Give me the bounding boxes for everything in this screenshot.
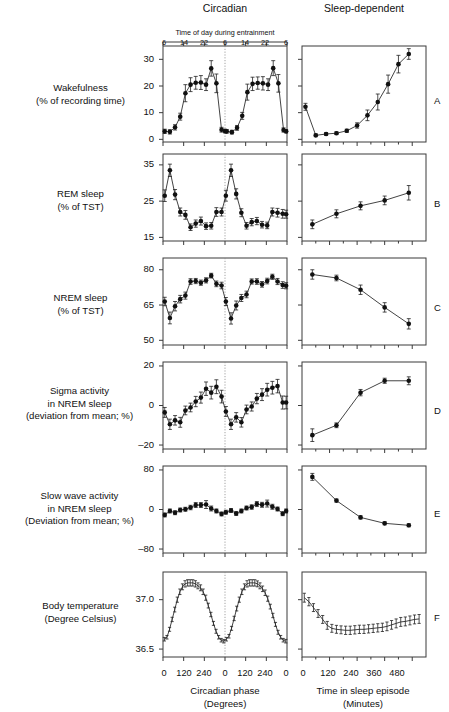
data-point: [214, 210, 219, 215]
data-point: [334, 423, 339, 428]
data-point: [255, 396, 260, 401]
x-tick-left-6: 0: [279, 668, 293, 678]
data-point: [199, 503, 204, 508]
data-point: [229, 422, 234, 427]
data-point: [406, 322, 411, 327]
data-point: [244, 506, 249, 511]
panel-D-left: [159, 362, 288, 453]
data-point: [375, 100, 380, 105]
data-point: [173, 304, 178, 309]
data-point: [193, 279, 198, 284]
data-point: [249, 220, 254, 225]
panel-C-left: [159, 258, 288, 349]
data-point: [310, 272, 315, 277]
data-point: [255, 279, 260, 284]
y-tick-label: 20: [96, 359, 154, 370]
data-point: [204, 224, 209, 229]
x-tick-right-2: 240: [339, 668, 363, 678]
x-axis-title-right-unit: (Minutes): [298, 697, 428, 710]
row-label-sigma-line3: (deviation from mean; %): [2, 410, 157, 423]
data-point: [284, 212, 289, 217]
data-point: [245, 90, 250, 95]
data-point: [355, 123, 360, 128]
data-point: [284, 400, 289, 405]
data-point: [260, 222, 265, 227]
data-point: [249, 404, 254, 409]
data-point: [270, 275, 275, 280]
data-point: [234, 303, 239, 308]
y-tick-label: 0: [96, 503, 154, 514]
data-point: [173, 418, 178, 423]
data-point: [235, 126, 240, 131]
x-axis-title-left-main: Circadian phase: [163, 684, 287, 697]
data-line: [165, 68, 286, 132]
data-point: [365, 113, 370, 118]
y-tick-label: 10: [96, 106, 154, 117]
panel-A-left: [159, 42, 288, 146]
column-header-sleep-dependent: Sleep-dependent: [300, 2, 428, 14]
top-axis-tick-2: 22: [197, 38, 211, 47]
data-point: [334, 498, 339, 503]
data-point: [193, 503, 198, 508]
data-point: [382, 305, 387, 310]
top-axis-tick-6: 6: [279, 38, 293, 47]
data-point: [249, 279, 254, 284]
top-axis-tick-5: 22: [258, 38, 272, 47]
data-point: [249, 505, 254, 510]
data-point: [358, 287, 363, 292]
panel-B-left: [159, 154, 288, 245]
data-point: [334, 131, 339, 136]
y-tick-label: 20: [96, 80, 154, 91]
data-point: [382, 198, 387, 203]
panel-D-right: [298, 362, 426, 453]
data-line: [312, 274, 408, 323]
data-point: [240, 114, 245, 119]
panel-A-right: [298, 46, 426, 146]
data-point: [230, 130, 235, 135]
data-point: [275, 507, 280, 512]
data-point: [239, 296, 244, 301]
data-point: [178, 297, 183, 302]
data-point: [239, 210, 244, 215]
data-point: [204, 502, 209, 507]
data-point: [358, 204, 363, 209]
data-point: [188, 279, 193, 284]
data-point: [270, 210, 275, 215]
data-point: [284, 509, 289, 514]
data-point: [214, 384, 219, 389]
data-point: [162, 193, 167, 198]
x-tick-right-0: 0: [296, 668, 310, 678]
y-tick-label: 80: [96, 463, 154, 474]
data-line: [312, 381, 408, 435]
data-point: [183, 91, 188, 96]
data-point: [275, 384, 280, 389]
y-tick-label: 35: [96, 158, 154, 169]
y-tick-label: 30: [96, 53, 154, 64]
data-point: [265, 387, 270, 392]
data-point: [193, 81, 198, 86]
data-point: [234, 511, 239, 516]
data-point: [303, 105, 308, 110]
data-point: [229, 508, 234, 513]
data-point: [162, 513, 167, 518]
panel-E-left: [159, 466, 288, 557]
data-point: [178, 420, 183, 425]
data-point: [204, 82, 209, 87]
data-point: [209, 66, 214, 71]
data-point: [173, 510, 178, 515]
data-point: [188, 405, 193, 410]
y-tick-label: –20: [96, 439, 154, 450]
data-point: [168, 509, 173, 514]
data-point: [396, 62, 401, 67]
data-point: [406, 190, 411, 195]
plot-frame: [302, 466, 426, 553]
data-point: [183, 507, 188, 512]
x-tick-right-4: 480: [385, 668, 409, 678]
data-point: [209, 506, 214, 511]
panel-letter-d: D: [434, 405, 441, 416]
data-point: [229, 168, 234, 173]
data-point: [204, 386, 209, 391]
data-point: [209, 223, 214, 228]
data-point: [275, 210, 280, 215]
data-point: [275, 279, 280, 284]
